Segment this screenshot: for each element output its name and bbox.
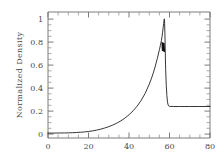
normalized-density-plot: 0 20 40 60 80 0 0.2 0.4 0.6 0.8 1 Normal… — [0, 0, 221, 168]
x-tick-label: 60 — [164, 142, 174, 151]
y-tick-label: 0 — [38, 130, 43, 139]
y-tick-label: 1 — [38, 15, 43, 24]
x-tick-label: 0 — [45, 142, 50, 151]
x-tick-label: 40 — [124, 142, 134, 151]
y-tick-label: 0.6 — [30, 61, 43, 70]
y-axis-title: Normalized Density — [15, 32, 24, 119]
chart-figure: 0 20 40 60 80 0 0.2 0.4 0.6 0.8 1 Normal… — [0, 0, 221, 168]
x-tick-label: 80 — [205, 142, 215, 151]
plot-area-background — [48, 12, 210, 138]
x-axis-tick-labels: 0 20 40 60 80 — [45, 142, 215, 151]
y-tick-label: 0.8 — [30, 38, 43, 47]
y-axis-tick-labels: 0 0.2 0.4 0.6 0.8 1 — [30, 15, 43, 139]
y-tick-label: 0.2 — [30, 107, 43, 116]
x-tick-label: 20 — [83, 142, 93, 151]
y-tick-label: 0.4 — [30, 84, 43, 93]
